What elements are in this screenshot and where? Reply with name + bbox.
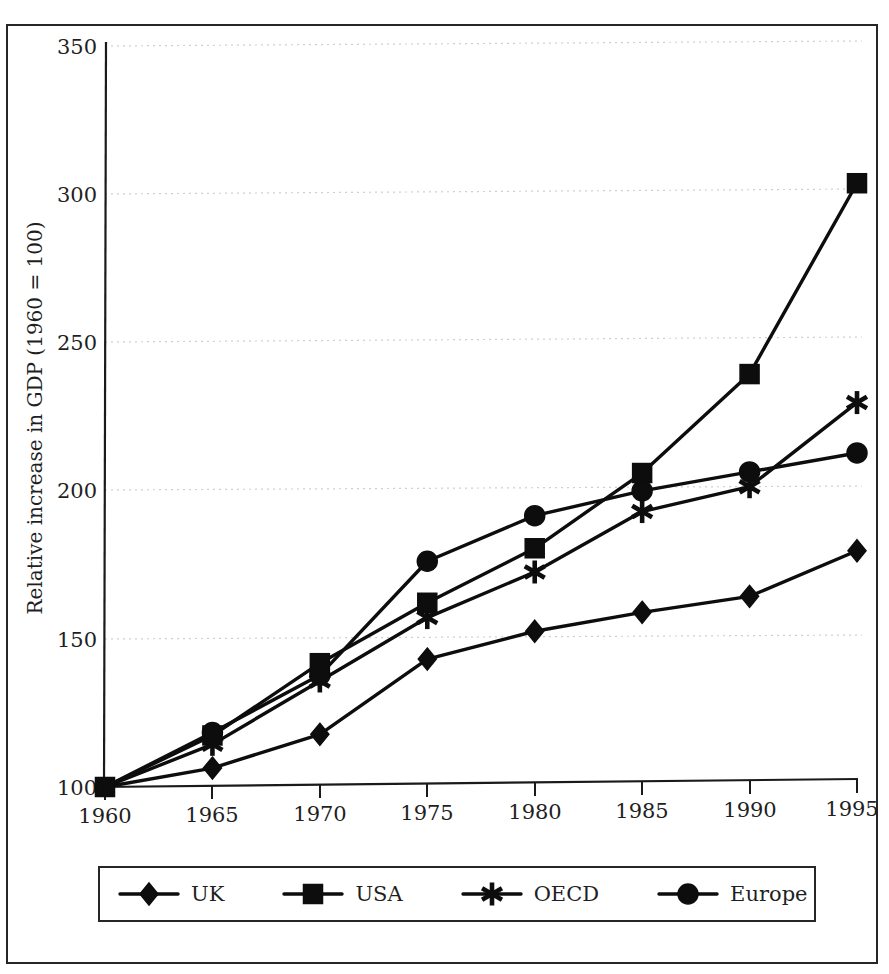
data-point-europe-1985 <box>632 481 652 501</box>
y-tick-300: 300 <box>57 183 97 207</box>
legend-label-uk: UK <box>191 882 224 906</box>
data-point-oecd-1995 <box>847 391 867 414</box>
legend-label-europe: Europe <box>730 882 807 906</box>
gridline-350 <box>105 41 862 46</box>
legend-label-oecd: OECD <box>534 882 599 906</box>
legend-marker-diamond-icon <box>118 879 180 909</box>
y-tick-150: 150 <box>57 628 97 652</box>
y-tick-labels: 350 300 250 200 150 100 <box>57 35 97 800</box>
data-point-uk-1970 <box>311 723 329 745</box>
gridline-300 <box>105 189 862 194</box>
data-point-europe-1980 <box>525 506 545 526</box>
x-tick-1990: 1990 <box>723 798 776 822</box>
data-point-europe-1975 <box>417 551 437 571</box>
circle-marker <box>678 884 698 904</box>
legend-label-usa: USA <box>355 882 402 906</box>
data-point-uk-1990 <box>741 585 759 607</box>
chart-legend: UKUSAOECDEurope <box>98 866 816 922</box>
legend-marker-circle-icon <box>657 879 719 909</box>
data-point-usa-1980 <box>525 539 544 558</box>
gridline-150 <box>105 635 862 639</box>
data-point-europe-1965 <box>202 723 222 743</box>
x-tick-1975: 1975 <box>400 801 453 825</box>
gridline-250 <box>105 337 862 342</box>
x-tick-1995: 1995 <box>825 797 878 821</box>
y-tick-100: 100 <box>57 776 97 800</box>
legend-item-europe[interactable]: Europe <box>657 879 807 909</box>
series-europe <box>105 443 867 787</box>
x-axis-line <box>99 779 858 787</box>
square-marker <box>304 885 323 904</box>
data-point-uk-1975 <box>418 648 436 670</box>
data-point-usa-1990 <box>740 365 759 384</box>
x-tick-1960: 1960 <box>78 804 131 828</box>
data-point-usa-1985 <box>633 464 652 483</box>
legend-item-usa[interactable]: USA <box>282 879 402 909</box>
data-point-europe-1995 <box>847 443 867 463</box>
legend-item-oecd[interactable]: OECD <box>461 879 599 909</box>
data-point-uk-1995 <box>848 540 866 562</box>
data-point-uk-1985 <box>633 601 651 623</box>
data-point-europe-1990 <box>740 462 760 482</box>
x-tick-1970: 1970 <box>293 802 346 826</box>
series-layer <box>96 174 868 797</box>
diamond-marker <box>140 883 158 905</box>
chart-svg: Relative increase in GDP (1960 = 100) 35… <box>0 0 889 974</box>
gridlines <box>105 41 862 639</box>
series-line-uk <box>105 551 857 787</box>
data-point-uk-1980 <box>526 620 544 642</box>
y-axis-line <box>104 42 106 787</box>
x-tick-1985: 1985 <box>615 799 668 823</box>
data-point-uk-1965 <box>203 757 221 779</box>
data-point-oecd-1980 <box>525 560 545 583</box>
x-tick-1965: 1965 <box>185 803 238 827</box>
legend-item-uk[interactable]: UK <box>118 879 224 909</box>
x-tick-1980: 1980 <box>508 800 561 824</box>
y-tick-200: 200 <box>57 479 97 503</box>
y-axis-title: Relative increase in GDP (1960 = 100) <box>23 221 47 614</box>
y-tick-350: 350 <box>57 35 97 59</box>
line-chart: Relative increase in GDP (1960 = 100) 35… <box>0 0 889 974</box>
x-tick-labels: 1960 1965 1970 1975 1980 1985 1990 1995 <box>78 797 878 828</box>
data-point-europe-1970 <box>310 665 330 685</box>
y-tick-250: 250 <box>57 331 97 355</box>
legend-marker-square-icon <box>282 879 344 909</box>
legend-marker-asterisk-icon <box>461 879 523 909</box>
data-point-usa-1995 <box>848 174 867 193</box>
legend-items: UKUSAOECDEurope <box>100 868 814 920</box>
